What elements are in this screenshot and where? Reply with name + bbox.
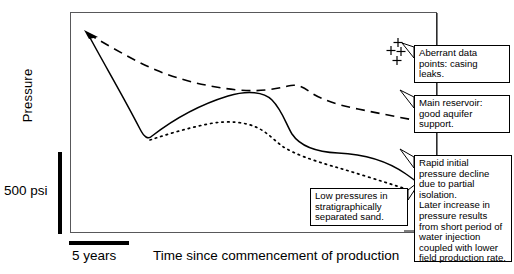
x-axis-label: Time since commencement of production bbox=[153, 248, 399, 263]
callout-rapid-decline: Rapid initial pressure decline due to pa… bbox=[414, 155, 512, 262]
series-main-reservoir-dashed bbox=[88, 34, 430, 123]
callout-main-reservoir-text: Main reservoir: good aquifer support. bbox=[419, 98, 506, 130]
callout-main-reservoir: Main reservoir: good aquifer support. bbox=[414, 95, 510, 133]
vertical-scale-label: 500 psi bbox=[4, 183, 48, 198]
horizontal-scale-label: 5 years bbox=[72, 248, 116, 263]
series-partial-isolation-solid bbox=[88, 34, 432, 198]
callout-rapid-decline-text: Rapid initial pressure decline due to pa… bbox=[419, 158, 508, 264]
y-axis-label: Pressure bbox=[20, 51, 35, 141]
horizontal-scale-bar bbox=[69, 241, 129, 245]
callout-aberrant-text: Aberrant data points: casing leaks. bbox=[419, 48, 506, 80]
callout-aberrant-data-points: Aberrant data points: casing leaks. bbox=[414, 45, 510, 83]
callout-low-pressures: Low pressures in stratigraphically separ… bbox=[310, 188, 408, 226]
series-separated-sand-dotted bbox=[150, 122, 422, 194]
pressure-history-figure: Aberrant data points: casing leaks. Main… bbox=[0, 0, 514, 274]
aberrant-data-points-markers bbox=[386, 38, 416, 70]
callout-low-pressures-text: Low pressures in stratigraphically separ… bbox=[315, 191, 404, 223]
vertical-scale-bar bbox=[58, 152, 62, 234]
